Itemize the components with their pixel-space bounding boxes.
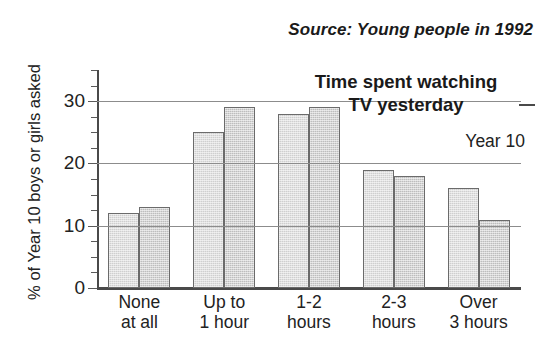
x-axis-label: 2-3hours bbox=[351, 292, 436, 332]
chart-title-line2-text: TV yesterday bbox=[348, 94, 463, 115]
x-axis-label-line1: Up to bbox=[182, 292, 267, 312]
chart-title-line2: TV yesterday bbox=[281, 93, 531, 116]
y-tick-minor-5 bbox=[91, 257, 97, 258]
y-tick-major-10 bbox=[88, 226, 97, 227]
y-tick-minor-12.5 bbox=[91, 210, 97, 211]
bar bbox=[363, 170, 394, 288]
bar bbox=[309, 107, 340, 288]
bar bbox=[139, 207, 170, 288]
legend-year-label: Year 10 bbox=[465, 131, 525, 152]
y-tick-minor-2.5 bbox=[91, 272, 97, 273]
bar bbox=[278, 114, 309, 288]
y-tick-minor-35 bbox=[91, 70, 97, 71]
x-axis-label: Noneat all bbox=[97, 292, 182, 332]
y-tick-minor-27.5 bbox=[91, 117, 97, 118]
x-axis-labels: Noneat allUp to1 hour1-2hours2-3hoursOve… bbox=[97, 292, 521, 350]
bar-group bbox=[108, 70, 170, 288]
x-axis-label-line2: hours bbox=[267, 312, 352, 332]
x-axis-label-line2: at all bbox=[97, 312, 182, 332]
y-tick-major-0 bbox=[88, 288, 97, 289]
x-axis-label-line2: 1 hour bbox=[182, 312, 267, 332]
x-axis-label-line1: None bbox=[97, 292, 182, 312]
gridline-10 bbox=[97, 226, 521, 227]
x-axis-label-line1: Over bbox=[436, 292, 521, 312]
chart-title-line1: Time spent watching bbox=[281, 70, 531, 93]
y-tick-minor-7.5 bbox=[91, 241, 97, 242]
bar bbox=[193, 132, 224, 288]
bar bbox=[108, 213, 139, 288]
y-axis-title-text: % of Year 10 boys or girls asked bbox=[25, 64, 44, 300]
gridline-20 bbox=[97, 163, 521, 164]
y-tick-label-30: 30 bbox=[64, 90, 85, 112]
x-axis-label: Up to1 hour bbox=[182, 292, 267, 332]
x-axis-label: Over3 hours bbox=[436, 292, 521, 332]
x-axis-label: 1-2hours bbox=[267, 292, 352, 332]
x-axis-label-line2: hours bbox=[351, 312, 436, 332]
y-tick-minor-22.5 bbox=[91, 148, 97, 149]
chart-title: Time spent watching TV yesterday bbox=[281, 70, 531, 116]
bar bbox=[448, 188, 479, 288]
bar-group bbox=[193, 70, 255, 288]
y-tick-minor-17.5 bbox=[91, 179, 97, 180]
bar bbox=[394, 176, 425, 288]
x-axis-label-line2: 3 hours bbox=[436, 312, 521, 332]
bar bbox=[224, 107, 255, 288]
y-tick-minor-15 bbox=[91, 195, 97, 196]
y-tick-minor-25 bbox=[91, 132, 97, 133]
y-axis-title: % of Year 10 boys or girls asked bbox=[22, 32, 46, 332]
y-tick-major-20 bbox=[88, 163, 97, 164]
y-tick-minor-32.5 bbox=[91, 86, 97, 87]
y-tick-major-30 bbox=[88, 101, 97, 102]
y-tick-label-20: 20 bbox=[64, 152, 85, 174]
x-axis-label-line1: 2-3 bbox=[351, 292, 436, 312]
source-note: Source: Young people in 1992 bbox=[288, 20, 533, 40]
bar-chart-figure: Source: Young people in 1992 % of Year 1… bbox=[0, 0, 541, 353]
x-axis-label-line1: 1-2 bbox=[267, 292, 352, 312]
bar bbox=[479, 220, 510, 289]
legend-dash-icon bbox=[519, 104, 535, 106]
y-tick-label-10: 10 bbox=[64, 215, 85, 237]
y-tick-label-0: 0 bbox=[74, 277, 85, 299]
